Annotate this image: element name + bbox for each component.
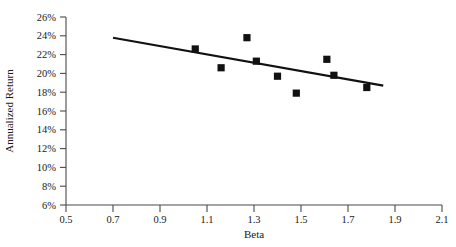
chart-figure: 6%8%10%12%14%16%18%20%22%24%26% 0.50.70.… [0, 0, 456, 247]
trendline [113, 38, 383, 86]
data-point-marker [192, 45, 199, 52]
y-axis-group: 6%8%10%12%14%16%18%20%22%24%26% [37, 12, 66, 211]
x-tick-label: 0.7 [106, 214, 119, 225]
data-point-marker [243, 34, 250, 41]
data-point-marker [330, 72, 337, 79]
data-point-marker [253, 58, 260, 65]
data-points-group [192, 34, 371, 97]
x-axis-title: Beta [244, 228, 264, 240]
scatter-plot-svg: 6%8%10%12%14%16%18%20%22%24%26% 0.50.70.… [0, 0, 456, 247]
x-tick-label: 1.5 [294, 214, 307, 225]
x-tick-label: 1.1 [200, 214, 213, 225]
x-tick-label: 1.9 [388, 214, 401, 225]
y-tick-label: 20% [37, 68, 57, 79]
data-point-marker [323, 56, 330, 63]
y-tick-label: 8% [42, 181, 56, 192]
x-tick-label: 2.1 [435, 214, 448, 225]
y-tick-label: 16% [37, 106, 57, 117]
trendline-group [113, 38, 383, 86]
x-tick-label: 0.5 [59, 214, 72, 225]
x-tick-label: 1.7 [341, 214, 354, 225]
x-axis-group: 0.50.70.91.11.31.51.71.92.1 [59, 205, 448, 225]
x-tick-label: 1.3 [247, 214, 260, 225]
x-tick-label: 0.9 [153, 214, 166, 225]
y-tick-label: 10% [37, 162, 57, 173]
y-tick-label: 14% [37, 124, 57, 135]
data-point-marker [363, 84, 370, 91]
data-point-marker [218, 64, 225, 71]
y-tick-label: 26% [37, 12, 57, 23]
y-tick-label: 24% [37, 30, 57, 41]
y-axis-title: Annualized Return [3, 69, 15, 153]
data-point-marker [293, 90, 300, 97]
y-tick-label: 12% [37, 143, 57, 154]
y-tick-label: 18% [37, 87, 57, 98]
data-point-marker [274, 73, 281, 80]
y-tick-label: 22% [37, 49, 57, 60]
y-tick-label: 6% [42, 200, 56, 211]
